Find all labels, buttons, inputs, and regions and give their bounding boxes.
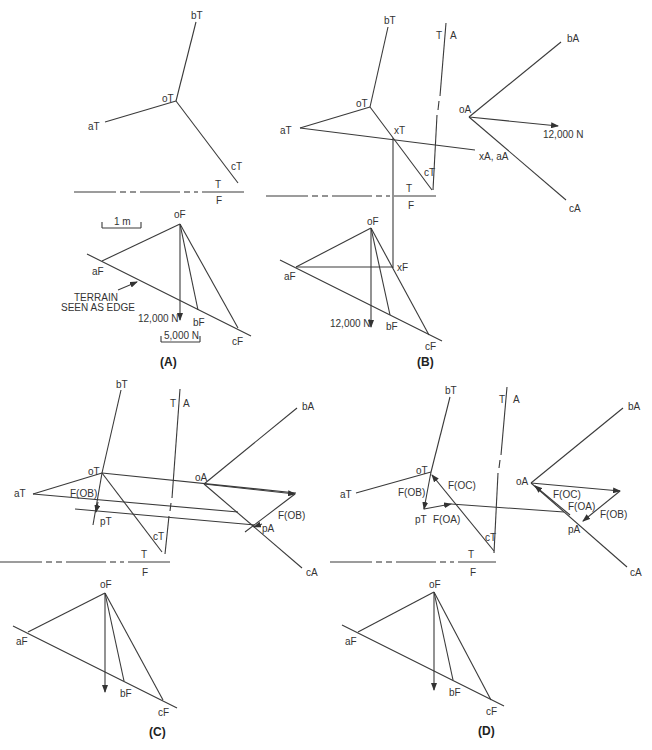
label-oT: oT bbox=[162, 93, 174, 104]
label-bF: bF bbox=[120, 688, 132, 699]
label-xT: xT bbox=[394, 125, 405, 136]
label-aT: aT bbox=[14, 488, 26, 499]
label-aF: aF bbox=[345, 636, 357, 647]
label-xA-aA: xA, aA bbox=[479, 151, 509, 162]
label-oA: oA bbox=[459, 104, 472, 115]
label-bF: bF bbox=[386, 321, 398, 332]
label-bF: bF bbox=[193, 317, 205, 328]
label-foa-T: F(OA) bbox=[433, 514, 460, 525]
label-cA: cA bbox=[306, 567, 318, 578]
label-pA: pA bbox=[568, 524, 581, 535]
fold-label-A: A bbox=[450, 30, 457, 41]
panel-c: bT oT aT F(OB) pT cT T A T F b bbox=[0, 379, 318, 739]
panel-d: bT oT aT F(OB) F(OC) pT F(OA) cT T A T F bbox=[330, 385, 642, 738]
caption-d: (D) bbox=[478, 724, 495, 738]
label-cF: cF bbox=[425, 341, 436, 352]
label-bF: bF bbox=[449, 687, 461, 698]
label-foc-T: F(OC) bbox=[448, 480, 476, 491]
label-cF: cF bbox=[232, 336, 243, 347]
fold-label-T2: T bbox=[406, 183, 412, 194]
scale-bar-length: 1 m bbox=[102, 216, 141, 228]
fold-label-A: A bbox=[183, 398, 190, 409]
label-oT: oT bbox=[416, 465, 428, 476]
fold-label-F: F bbox=[408, 200, 414, 211]
label-oA: oA bbox=[516, 476, 529, 487]
label-pA: pA bbox=[262, 523, 275, 534]
label-cA: cA bbox=[569, 203, 581, 214]
label-aF: aF bbox=[16, 636, 28, 647]
label-aT: aT bbox=[340, 489, 352, 500]
fold-label-A: A bbox=[513, 394, 520, 405]
caption-c: (C) bbox=[149, 725, 166, 739]
label-aT: aT bbox=[280, 125, 292, 136]
label-fob-A: F(OB) bbox=[600, 509, 627, 520]
label-load-F: 12,000 N bbox=[330, 318, 371, 329]
fold-label-T: T bbox=[215, 179, 221, 190]
label-pT: pT bbox=[415, 514, 427, 525]
panel-a: bT oT aT cT T F 1 m oF aF bF bbox=[61, 10, 251, 369]
fold-label-F: F bbox=[142, 567, 148, 578]
fold-line-ta bbox=[165, 389, 180, 554]
label-cF: cF bbox=[486, 706, 497, 717]
caption-b: (B) bbox=[417, 355, 434, 369]
scale-bar-force: 5,000 N bbox=[161, 330, 200, 342]
label-load: 12,000 N bbox=[138, 313, 179, 324]
label-fob-A: F(OB) bbox=[278, 510, 305, 521]
label-bT: bT bbox=[384, 15, 396, 26]
label-foc-A: F(OC) bbox=[553, 489, 581, 500]
label-oT: oT bbox=[88, 466, 100, 477]
label-foa-A: F(OA) bbox=[568, 501, 595, 512]
fold-label-T2: T bbox=[468, 549, 474, 560]
fold-line-ta bbox=[494, 387, 507, 553]
label-bA: bA bbox=[567, 33, 580, 44]
label-cT: cT bbox=[153, 531, 164, 542]
label-oT: oT bbox=[356, 98, 368, 109]
label-oF: oF bbox=[429, 579, 441, 590]
fold-label-T: T bbox=[436, 30, 442, 41]
label-cT: cT bbox=[231, 161, 242, 172]
label-bA: bA bbox=[628, 401, 641, 412]
fold-label-T: T bbox=[499, 394, 505, 405]
label-oF: oF bbox=[367, 216, 379, 227]
label-pT: pT bbox=[100, 516, 112, 527]
label-bT: bT bbox=[191, 10, 203, 21]
label-cF: cF bbox=[158, 707, 169, 718]
label-aT: aT bbox=[88, 121, 100, 132]
fold-label-F: F bbox=[216, 195, 222, 206]
panel-b: bT oT aT xT cT T A T F bA oA bbox=[266, 15, 584, 369]
fold-label-T2: T bbox=[141, 549, 147, 560]
label-aF: aF bbox=[92, 266, 104, 277]
label-bA: bA bbox=[302, 401, 315, 412]
svg-text:1 m: 1 m bbox=[114, 216, 131, 227]
label-oA: oA bbox=[195, 472, 208, 483]
label-oF: oF bbox=[100, 579, 112, 590]
label-load-A: 12,000 N bbox=[543, 129, 584, 140]
label-bT: bT bbox=[116, 379, 128, 390]
caption-a: (A) bbox=[160, 355, 177, 369]
label-fob-T: F(OB) bbox=[70, 488, 97, 499]
fold-line-ta bbox=[433, 23, 446, 190]
label-bT: bT bbox=[445, 385, 457, 396]
svg-text:5,000 N: 5,000 N bbox=[164, 330, 199, 341]
label-cA: cA bbox=[630, 567, 642, 578]
label-oF: oF bbox=[174, 209, 186, 220]
label-aF: aF bbox=[284, 271, 296, 282]
terrain-label-2: SEEN AS EDGE bbox=[61, 302, 135, 313]
descriptive-geometry-figure: bT oT aT cT T F 1 m oF aF bF bbox=[0, 0, 652, 750]
label-xF: xF bbox=[397, 262, 408, 273]
fold-label-F: F bbox=[470, 567, 476, 578]
label-fob-T: F(OB) bbox=[398, 487, 425, 498]
fold-label-T: T bbox=[170, 398, 176, 409]
